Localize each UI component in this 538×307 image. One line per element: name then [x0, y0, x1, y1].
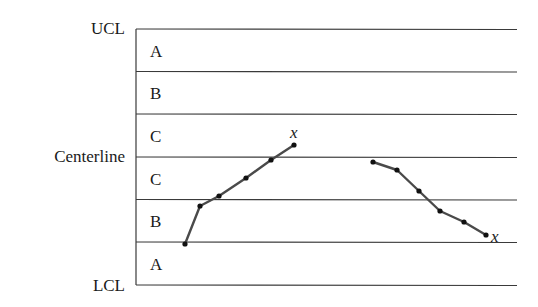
end-marker-down: x: [490, 227, 499, 246]
series-trend-down: x: [370, 159, 499, 246]
data-point: [268, 157, 273, 162]
zone-boundary-b-a-lower: [136, 242, 517, 243]
ucl-line: [136, 29, 517, 30]
zone-label-c-upper: C: [150, 127, 161, 146]
data-point: [437, 208, 442, 213]
data-point: [461, 219, 466, 224]
data-point: [416, 188, 421, 193]
data-point: [216, 193, 221, 198]
series-trend-up: x: [182, 123, 298, 247]
zone-boundary-a-b-upper: [136, 72, 517, 73]
ucl-label: UCL: [91, 19, 125, 38]
zone-label-b-upper: B: [150, 84, 161, 103]
zone-label-b-lower: B: [150, 212, 161, 231]
data-point: [291, 142, 296, 147]
centerline: [136, 157, 517, 158]
zone-label-a-upper: A: [150, 42, 163, 61]
data-point: [483, 232, 488, 237]
data-point: [197, 203, 202, 208]
lcl-label: LCL: [93, 276, 125, 295]
control-chart: UCL Centerline LCL A B C C B A x x: [0, 0, 538, 307]
data-point: [394, 167, 399, 172]
zone-boundary-b-c-upper: [136, 114, 517, 115]
lcl-line: [136, 285, 517, 286]
end-marker-up: x: [289, 123, 298, 142]
zone-boundary-c-b-lower: [136, 200, 517, 201]
data-point: [243, 175, 248, 180]
zone-label-a-lower: A: [150, 255, 163, 274]
zone-label-c-lower: C: [150, 170, 161, 189]
centerline-label: Centerline: [54, 147, 125, 166]
data-point: [182, 241, 187, 246]
data-point: [370, 159, 375, 164]
